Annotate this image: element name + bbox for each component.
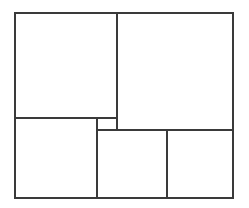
dissection-diagram (0, 0, 249, 208)
region-bottom-left-square (15, 118, 97, 198)
region-small-center-square (97, 118, 117, 130)
region-bottom-middle-square (97, 130, 167, 198)
region-top-left-square (15, 13, 117, 118)
dissection-figure: Squared rectangle dissection (0, 0, 249, 208)
region-bottom-right-square (167, 130, 233, 198)
region-top-right-square (117, 13, 233, 130)
